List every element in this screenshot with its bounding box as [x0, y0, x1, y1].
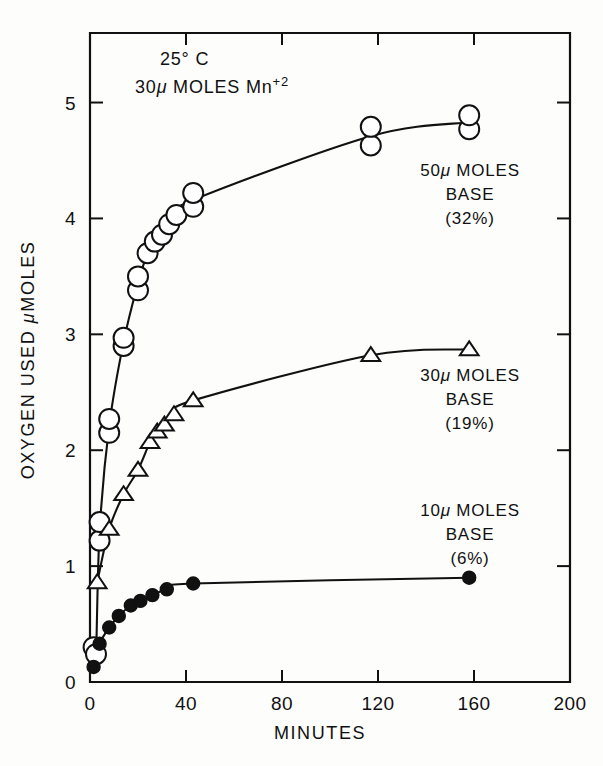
label-10u-line1: 10μ MOLES [420, 501, 520, 520]
marker-filled-circle [112, 609, 125, 622]
y-axis-title: OXYGEN USED μMOLES [18, 241, 38, 480]
marker-filled-circle [134, 594, 147, 607]
y-tick-label: 1 [65, 556, 76, 577]
oxygen-uptake-chart: 04080120160200 123450 25° C 30μ MOLES Mn… [0, 0, 603, 766]
marker-open-circle [99, 409, 119, 429]
annotation-catalyst: 30μ MOLES Mn+2 [135, 74, 289, 97]
label-10u-line3: (6%) [450, 549, 489, 568]
marker-filled-circle [103, 621, 116, 634]
marker-open-circle [114, 328, 134, 348]
y-tick-label: 3 [65, 324, 76, 345]
x-tick-label: 0 [84, 693, 95, 714]
y-tick-label: 2 [65, 440, 76, 461]
marker-open-circle [183, 183, 203, 203]
x-axis-title: MINUTES [274, 723, 366, 743]
label-50u-line2: BASE [446, 185, 495, 204]
marker-filled-circle [87, 660, 100, 673]
figure-container: 04080120160200 123450 25° C 30μ MOLES Mn… [0, 0, 603, 766]
label-10u-line2: BASE [446, 525, 495, 544]
marker-filled-circle [160, 583, 173, 596]
x-tick-label: 80 [271, 693, 293, 714]
marker-open-circle [361, 135, 381, 155]
marker-open-circle [459, 105, 479, 125]
marker-open-circle [128, 266, 148, 286]
x-tick-label: 200 [553, 693, 586, 714]
x-tick-label: 120 [361, 693, 394, 714]
label-50u-line1: 50μ MOLES [420, 161, 520, 180]
y-tick-label: 5 [65, 93, 76, 114]
label-30u-line3: (19%) [445, 414, 494, 433]
x-tick-label: 160 [457, 693, 490, 714]
label-50u-line3: (32%) [445, 209, 494, 228]
marker-filled-circle [93, 637, 106, 650]
marker-filled-circle [146, 589, 159, 602]
y-tick-label: 4 [65, 208, 76, 229]
x-tick-label: 40 [175, 693, 197, 714]
label-30u-line1: 30μ MOLES [420, 366, 520, 385]
marker-filled-circle [187, 577, 200, 590]
marker-open-circle [361, 117, 381, 137]
annotation-temperature: 25° C [160, 49, 209, 69]
y-tick-label-zero: 0 [65, 672, 76, 693]
marker-filled-circle [463, 571, 476, 584]
label-30u-line2: BASE [446, 390, 495, 409]
